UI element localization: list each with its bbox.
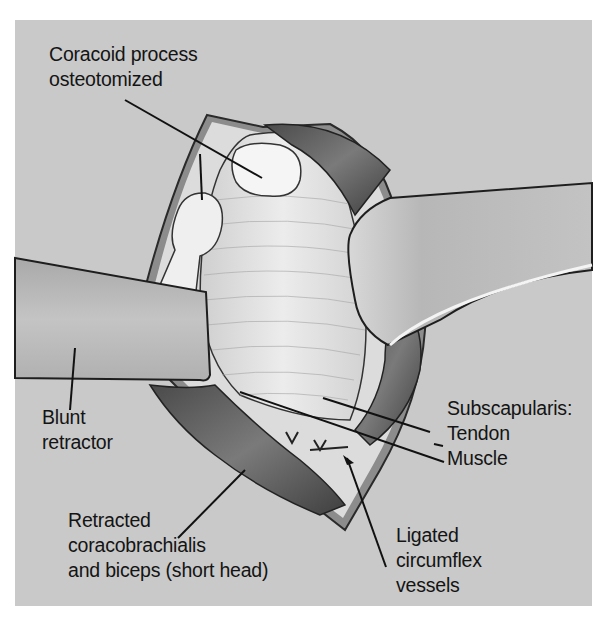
label-coracoid-process: Coracoid process osteotomized bbox=[49, 42, 198, 92]
coracoid-process-bone bbox=[232, 143, 301, 196]
leader-tendon-dash bbox=[434, 444, 443, 446]
label-ligated-vessels: Ligated circumflex vessels bbox=[396, 523, 482, 598]
label-retracted-muscles: Retracted coracobrachialis and biceps (s… bbox=[68, 508, 268, 583]
label-subscapularis: Subscapularis: Tendon Muscle bbox=[447, 396, 572, 471]
right-retractor[interactable] bbox=[348, 183, 592, 345]
label-blunt-retractor: Blunt retractor bbox=[42, 405, 113, 455]
